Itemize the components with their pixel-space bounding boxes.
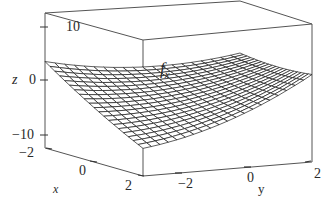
- z-axis-label: z: [12, 73, 17, 87]
- function-subscript: x: [165, 68, 170, 80]
- y-tick-label-m2: −2: [178, 177, 193, 191]
- z-tick-label-10: 10: [66, 20, 80, 34]
- surface-mesh: [45, 53, 312, 148]
- surface-plot: [0, 0, 326, 197]
- x-axis-label: x: [53, 183, 58, 195]
- z-axis-ticks: [40, 27, 48, 135]
- x-tick-label-0: 0: [79, 164, 86, 178]
- z-tick-label-0: 0: [29, 73, 36, 87]
- y-tick-label-0: 0: [247, 171, 254, 185]
- y-axis-label: y: [258, 182, 265, 195]
- x-tick-label-m2: −2: [19, 146, 34, 160]
- y-tick-label-2: 2: [314, 167, 321, 181]
- function-label: fx: [160, 60, 170, 80]
- x-tick-label-2: 2: [125, 179, 132, 193]
- z-tick-label-m10: −10: [12, 128, 34, 142]
